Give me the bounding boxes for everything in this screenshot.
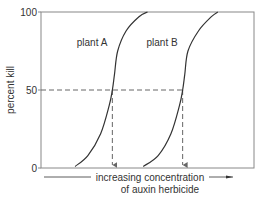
chart: 050100percent killplant Aplant Bincreasi… [0,0,264,202]
x-axis-label-line2: of auxin herbicide [121,184,200,195]
series-label: plant A [77,37,108,48]
y-tick-label: 0 [31,163,37,174]
y-tick-label: 100 [20,7,37,18]
curve-plant-b [143,12,218,166]
curve-plant-a [75,12,147,166]
y-axis-label: percent kill [5,66,16,114]
y-tick-label: 50 [26,85,38,96]
x-axis-label-line1: increasing concentration [96,172,204,183]
series-label: plant B [147,37,178,48]
